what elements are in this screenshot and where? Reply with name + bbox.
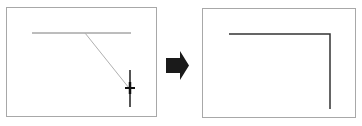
- diagram-canvas: [0, 0, 362, 126]
- corner-result-line: [229, 34, 330, 109]
- right-arrow-icon: [166, 51, 189, 80]
- rubber-band-line: [85, 33, 129, 88]
- crosshair-icon: [125, 82, 135, 94]
